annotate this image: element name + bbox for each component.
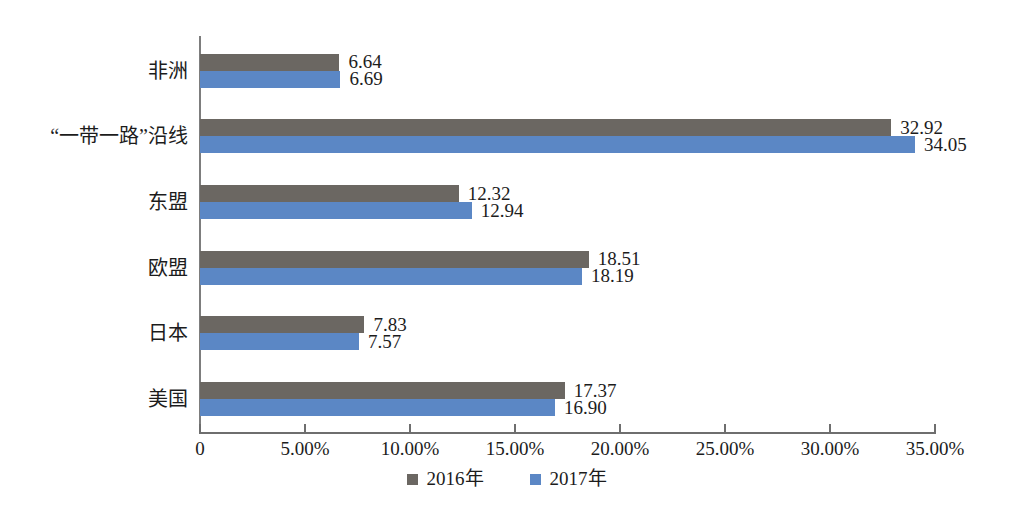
chart-category-row: 欧盟18.5118.19: [0, 235, 1013, 301]
category-label: 日本: [0, 320, 188, 346]
bar-value-label: 7.57: [368, 331, 401, 353]
bar-2017年: [200, 268, 582, 285]
chart-category-row: “一带一路”沿线32.9234.05: [0, 104, 1013, 170]
legend-label: 2017年: [550, 468, 607, 490]
category-label: 东盟: [0, 189, 188, 215]
bar-value-label: 34.05: [924, 134, 967, 156]
x-tick-label-5: 25.00%: [696, 436, 755, 462]
bar-value-label: 6.69: [349, 68, 382, 90]
chart-category-row: 东盟12.3212.94: [0, 169, 1013, 235]
category-label: 非洲: [0, 58, 188, 84]
category-label: 欧盟: [0, 255, 188, 281]
bar-2016年: [200, 185, 459, 202]
chart-category-row: 日本7.837.57: [0, 301, 1013, 367]
bar-2017年: [200, 399, 555, 416]
bar-2016年: [200, 54, 339, 71]
bar-2017年: [200, 202, 472, 219]
bar-2017年: [200, 71, 340, 88]
bar-2016年: [200, 251, 589, 268]
bar-2016年: [200, 119, 891, 136]
chart-category-row: 美国17.3716.90: [0, 366, 1013, 432]
legend-item[interactable]: 2017年: [530, 468, 607, 490]
chart-category-row: 非洲6.646.69: [0, 38, 1013, 104]
legend-swatch-icon: [530, 474, 541, 485]
x-tick-label-2: 10.00%: [381, 436, 440, 462]
legend-label: 2016年: [427, 468, 484, 490]
bar-2016年: [200, 316, 364, 333]
category-label: 美国: [0, 386, 188, 412]
legend-item[interactable]: 2016年: [407, 468, 484, 490]
bar-2016年: [200, 382, 565, 399]
x-tick-label-1: 5.00%: [280, 436, 329, 462]
x-tick-label-0: 0: [195, 436, 205, 462]
x-tick-label-3: 15.00%: [486, 436, 545, 462]
bar-2017年: [200, 333, 359, 350]
x-tick-label-6: 30.00%: [801, 436, 860, 462]
bar-2017年: [200, 136, 915, 153]
value-axis-line: [199, 432, 936, 434]
bar-value-label: 18.19: [591, 265, 634, 287]
x-tick-label-4: 20.00%: [591, 436, 650, 462]
legend-swatch-icon: [407, 474, 418, 485]
bar-value-label: 12.94: [481, 200, 524, 222]
bar-chart: 05.00%10.00%15.00%20.00%25.00%30.00%35.0…: [0, 0, 1013, 518]
bar-value-label: 16.90: [564, 397, 607, 419]
category-label: “一带一路”沿线: [0, 123, 188, 149]
chart-legend: 2016年2017年: [0, 468, 1013, 490]
x-tick-label-7: 35.00%: [906, 436, 965, 462]
